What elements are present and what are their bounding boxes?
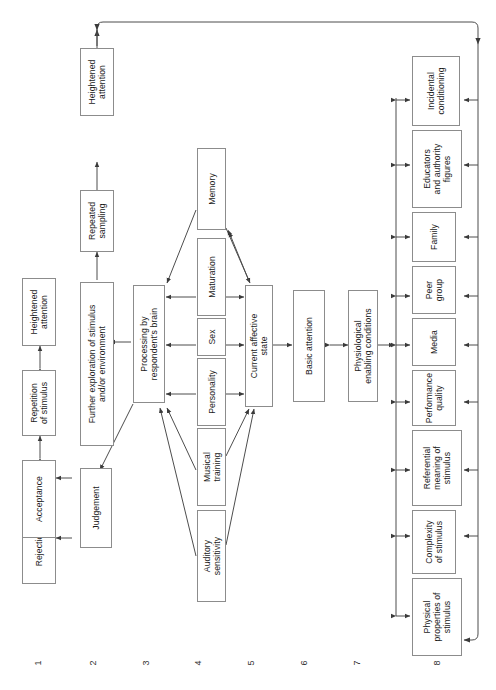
row-number-3: 3 xyxy=(141,656,151,670)
node-judgement-label: Judgement xyxy=(91,486,101,529)
node-heightened-attention-lower[interactable]: Heightenedattention xyxy=(22,278,56,346)
node-repetition-of-stimulus-label: Repetitionof stimulus xyxy=(29,382,49,424)
node-physiological-enabling-conditions-label: Physiologicalenabling conditions xyxy=(353,308,373,383)
node-processing-brain[interactable]: Processing byrespondent's brain xyxy=(133,285,165,403)
node-physiological-enabling-conditions[interactable]: Physiologicalenabling conditions xyxy=(348,290,378,402)
node-referential-meaning-of-stimulus[interactable]: Referentialmeaning ofstimulus xyxy=(412,430,462,506)
row-number-4: 4 xyxy=(193,656,203,670)
node-maturation-label: Maturation xyxy=(206,256,216,298)
node-auditory-sensitivity[interactable]: Auditorysensitivity xyxy=(197,510,226,602)
node-personality-label: Personality xyxy=(206,370,216,414)
node-complexity-of-stimulus[interactable]: Complexityof stimulus xyxy=(412,510,456,574)
node-sex-label: Sex xyxy=(206,329,216,344)
node-memory-label: Memory xyxy=(206,173,216,205)
node-basic-attention[interactable]: Basic attention xyxy=(293,290,325,402)
node-educators-and-authority-figures-label: Educatorsand authorityfigures xyxy=(422,144,452,195)
node-performance-quality[interactable]: Performancequality xyxy=(412,370,456,426)
node-judgement[interactable]: Judgement xyxy=(80,468,112,548)
node-auditory-sensitivity-label: Auditorysensitivity xyxy=(201,537,221,575)
node-incidental-conditioning-label: Incidentalconditioning xyxy=(426,67,446,114)
node-musical-training-label: Musicaltraining xyxy=(201,452,221,482)
node-further-exploration[interactable]: Further exploration of stimulusand/or en… xyxy=(80,282,114,446)
node-current-affective-state[interactable]: Current affectivestate xyxy=(245,285,273,407)
node-media-label: Media xyxy=(429,330,439,354)
node-physical-properties-of-stimulus[interactable]: Physicalproperties ofstimulus xyxy=(412,578,462,656)
row-number-6: 6 xyxy=(299,656,309,670)
node-further-exploration-label: Further exploration of stimulusand/or en… xyxy=(87,305,107,424)
row-number-8: 8 xyxy=(432,656,442,670)
row-number-5: 5 xyxy=(246,656,256,670)
node-current-affective-state-label: Current affectivestate xyxy=(249,314,269,379)
node-memory[interactable]: Memory xyxy=(197,148,226,230)
node-sex[interactable]: Sex xyxy=(197,318,226,356)
node-peer-group[interactable]: Peergroup xyxy=(412,266,456,314)
node-complexity-of-stimulus-label: Complexityof stimulus xyxy=(424,520,444,564)
row-number-2: 2 xyxy=(88,656,98,670)
node-personality[interactable]: Personality xyxy=(197,358,226,426)
node-repeated-sampling-label: Repeatedsampling xyxy=(87,202,107,240)
node-heightened-attention-lower-label: Heightenedattention xyxy=(29,290,49,335)
node-family[interactable]: Family xyxy=(412,212,456,262)
row-number-1: 1 xyxy=(33,656,43,670)
node-maturation[interactable]: Maturation xyxy=(197,238,226,316)
node-media[interactable]: Media xyxy=(412,318,456,366)
diagram-canvas: Rejection Acceptance Repetitionof stimul… xyxy=(0,0,496,690)
node-educators-and-authority-figures[interactable]: Educatorsand authorityfigures xyxy=(412,130,462,208)
node-peer-group-label: Peergroup xyxy=(424,279,444,301)
node-heightened-attention-upper-label: Heightenedattention xyxy=(87,60,107,105)
node-physical-properties-of-stimulus-label: Physicalproperties ofstimulus xyxy=(422,592,452,641)
node-repetition-of-stimulus[interactable]: Repetitionof stimulus xyxy=(22,370,56,436)
node-repeated-sampling[interactable]: Repeatedsampling xyxy=(80,190,114,252)
node-performance-quality-label: Performancequality xyxy=(424,373,444,423)
row-number-7: 7 xyxy=(352,656,362,670)
node-family-label: Family xyxy=(429,224,439,250)
node-musical-training[interactable]: Musicaltraining xyxy=(197,428,226,506)
node-heightened-attention-upper[interactable]: Heightenedattention xyxy=(80,48,114,116)
node-acceptance-label: Acceptance xyxy=(34,476,44,522)
node-referential-meaning-of-stimulus-label: Referentialmeaning ofstimulus xyxy=(422,446,452,490)
node-incidental-conditioning[interactable]: Incidentalconditioning xyxy=(412,56,460,126)
node-acceptance[interactable]: Acceptance xyxy=(22,460,56,538)
node-basic-attention-label: Basic attention xyxy=(304,317,314,375)
node-processing-brain-label: Processing byrespondent's brain xyxy=(139,308,159,380)
